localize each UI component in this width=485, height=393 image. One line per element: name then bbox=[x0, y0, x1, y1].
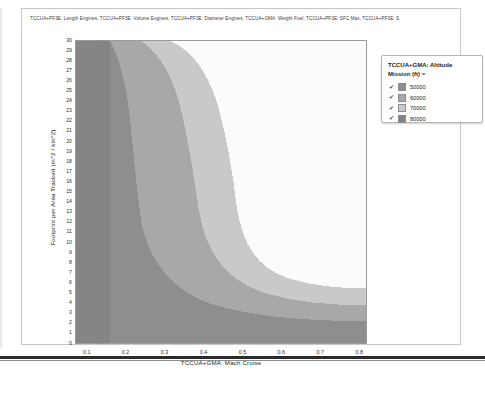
y-tick-mark bbox=[100, 323, 103, 324]
legend-entries: ✔50000✔60000✔70000✔80000 bbox=[388, 82, 476, 124]
legend-color-swatch bbox=[398, 115, 406, 123]
y-tick-mark bbox=[100, 121, 103, 122]
y-tick-label: 27 bbox=[52, 66, 72, 75]
y-tick-mark bbox=[100, 272, 103, 273]
y-tick-mark bbox=[100, 333, 103, 334]
y-tick-mark bbox=[100, 101, 103, 102]
y-tick-mark bbox=[100, 282, 103, 283]
y-tick-mark bbox=[100, 232, 103, 233]
y-tick-mark bbox=[100, 343, 103, 344]
y-axis-label: Footprint per Area Tracked (m^2 / km^2) bbox=[49, 93, 56, 283]
chart-panel: TCCUA+PF3E: Length Engines, TCCUA+PF3E: … bbox=[21, 8, 461, 345]
y-tick-mark bbox=[100, 212, 103, 213]
y-tick-mark bbox=[100, 222, 103, 223]
y-tick-label: 4 bbox=[52, 298, 72, 307]
y-tick-mark bbox=[100, 303, 103, 304]
page-left-edge bbox=[0, 8, 2, 348]
legend-color-swatch bbox=[398, 83, 406, 91]
y-tick-label: 2 bbox=[52, 318, 72, 327]
legend-color-swatch bbox=[398, 104, 406, 112]
y-tick-label: 26 bbox=[52, 76, 72, 85]
y-tick-label: 29 bbox=[52, 46, 72, 55]
legend-title-line2: Mission (ft) = bbox=[388, 71, 425, 77]
legend-item-label: 80000 bbox=[410, 115, 426, 123]
legend-box[interactable]: TCCUA+GMA: Altitude Mission (ft) = ✔5000… bbox=[381, 55, 483, 123]
y-tick-label: 1 bbox=[52, 328, 72, 337]
footer-divider-secondary bbox=[0, 360, 485, 361]
document-page: TCCUA+PF3E: Length Engines, TCCUA+PF3E: … bbox=[0, 0, 485, 393]
y-tick-label: 0 bbox=[52, 339, 72, 348]
legend-color-swatch bbox=[398, 94, 406, 102]
legend-item[interactable]: ✔70000 bbox=[388, 103, 476, 113]
legend-item[interactable]: ✔50000 bbox=[388, 82, 476, 92]
y-tick-label: 5 bbox=[52, 288, 72, 297]
y-tick-mark bbox=[100, 141, 103, 142]
chart-title: TCCUA+PF3E: Length Engines, TCCUA+PF3E: … bbox=[30, 14, 462, 24]
legend-item-label: 70000 bbox=[410, 104, 426, 112]
y-tick-label: 3 bbox=[52, 308, 72, 317]
legend-item[interactable]: ✔60000 bbox=[388, 93, 476, 103]
y-tick-mark bbox=[100, 111, 103, 112]
legend-item-label: 50000 bbox=[410, 83, 426, 91]
y-tick-mark bbox=[100, 70, 103, 71]
y-tick-mark bbox=[100, 60, 103, 61]
y-tick-mark bbox=[100, 151, 103, 152]
y-tick-mark bbox=[100, 262, 103, 263]
y-tick-mark bbox=[100, 242, 103, 243]
plot-area bbox=[75, 40, 367, 344]
y-tick-label: 30 bbox=[52, 36, 72, 45]
y-tick-mark bbox=[100, 80, 103, 81]
y-tick-mark bbox=[100, 313, 103, 314]
y-tick-mark bbox=[100, 192, 103, 193]
y-tick-label: 28 bbox=[52, 56, 72, 65]
legend-title: TCCUA+GMA: Altitude Mission (ft) = bbox=[388, 61, 476, 78]
contour-canvas bbox=[76, 41, 366, 343]
footer-divider bbox=[0, 356, 485, 359]
legend-item[interactable]: ✔80000 bbox=[388, 114, 476, 124]
y-tick-mark bbox=[100, 40, 103, 41]
y-tick-mark bbox=[100, 50, 103, 51]
y-tick-mark bbox=[100, 181, 103, 182]
legend-checkbox-icon[interactable]: ✔ bbox=[388, 115, 395, 122]
y-tick-mark bbox=[100, 131, 103, 132]
legend-item-label: 60000 bbox=[410, 94, 426, 102]
legend-checkbox-icon[interactable]: ✔ bbox=[388, 94, 395, 101]
legend-title-line1: TCCUA+GMA: Altitude bbox=[388, 62, 452, 68]
legend-checkbox-icon[interactable]: ✔ bbox=[388, 84, 395, 91]
y-tick-mark bbox=[100, 293, 103, 294]
y-tick-mark bbox=[100, 252, 103, 253]
y-tick-mark bbox=[100, 202, 103, 203]
y-tick-mark bbox=[100, 171, 103, 172]
y-tick-mark bbox=[100, 91, 103, 92]
y-tick-mark bbox=[100, 161, 103, 162]
legend-checkbox-icon[interactable]: ✔ bbox=[388, 105, 395, 112]
